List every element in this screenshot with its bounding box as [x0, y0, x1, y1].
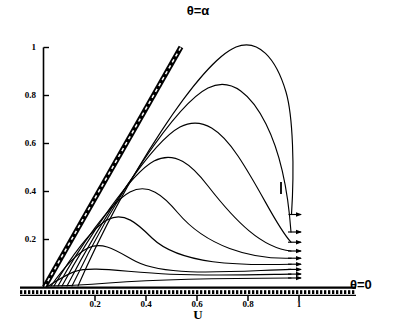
streamline-contour-figure	[0, 0, 396, 335]
theta-zero-label: θ=0	[350, 278, 372, 291]
x-tick-label-1: 1	[284, 299, 314, 309]
streamline-9	[78, 45, 293, 286]
streamline-1	[47, 278, 292, 286]
streamline-group	[47, 45, 293, 286]
y-tick-label-0-8: 0.8	[4, 90, 36, 100]
y-tick-label-0-2: 0.2	[4, 234, 36, 244]
x-axis-hatched-wall	[20, 287, 356, 296]
x-axis-title: U	[0, 308, 396, 321]
x-tick-label-0-8: 0.8	[233, 299, 263, 309]
theta-alpha-label: θ=α	[0, 4, 396, 17]
streamline-7	[67, 123, 291, 286]
y-tick-label-0-6: 0.6	[4, 138, 36, 148]
x-tick-label-0-4: 0.4	[131, 299, 161, 309]
y-axis	[44, 48, 50, 288]
x-tick-label-0-2: 0.2	[80, 299, 110, 309]
y-tick-label-0-4: 0.4	[4, 186, 36, 196]
y-tick-label-1: 1	[8, 42, 36, 52]
theta-alpha-boundary	[45, 47, 182, 287]
streamline-6	[62, 157, 291, 286]
x-tick-label-0-6: 0.6	[182, 299, 212, 309]
